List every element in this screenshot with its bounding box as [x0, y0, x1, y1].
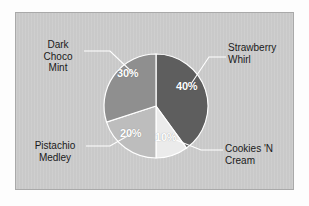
category-label-pistachio-medley: Pistachio Medley: [25, 140, 85, 163]
pie-graphic: [0, 0, 309, 206]
category-label-pistachio-medley-line1: Pistachio: [25, 140, 85, 152]
category-label-dark-choco-mint-line2: Choco: [34, 51, 82, 63]
category-label-dark-choco-mint-line3: Mint: [34, 62, 82, 74]
pie-chart-figure: 40% 10% 20% 30% Strawberry Whirl Cookies…: [0, 0, 309, 206]
category-label-pistachio-medley-line2: Medley: [25, 152, 85, 164]
category-label-cookies-n-cream: Cookies 'N Cream: [225, 143, 273, 166]
category-label-dark-choco-mint-line1: Dark: [34, 39, 82, 51]
category-label-cookies-n-cream-line1: Cookies 'N: [225, 143, 273, 155]
category-label-strawberry-whirl-line1: Strawberry: [228, 42, 276, 54]
category-label-strawberry-whirl: Strawberry Whirl: [228, 42, 276, 65]
pct-label-dark-choco-mint: 30%: [117, 67, 138, 79]
pct-label-strawberry-whirl: 40%: [176, 80, 197, 92]
category-label-dark-choco-mint: Dark Choco Mint: [34, 39, 82, 74]
pct-label-pistachio-medley: 20%: [120, 127, 141, 139]
category-label-cookies-n-cream-line2: Cream: [225, 155, 273, 167]
pct-label-cookies-n-cream: 10%: [155, 131, 176, 143]
category-label-strawberry-whirl-line2: Whirl: [228, 54, 276, 66]
